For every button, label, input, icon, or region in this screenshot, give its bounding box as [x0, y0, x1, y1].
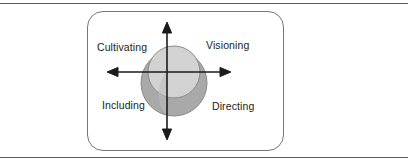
quadrant-venn-graphic [87, 11, 284, 151]
quadrant-label-including: Including [102, 99, 145, 111]
top-horizontal-rule [0, 3, 408, 4]
quadrant-label-directing: Directing [212, 100, 254, 112]
quadrant-label-cultivating: Cultivating [97, 41, 147, 53]
bottom-horizontal-rule [0, 157, 408, 158]
figure-root: Cultivating Visioning Including Directin… [0, 0, 408, 164]
quadrant-label-visioning: Visioning [206, 39, 249, 51]
